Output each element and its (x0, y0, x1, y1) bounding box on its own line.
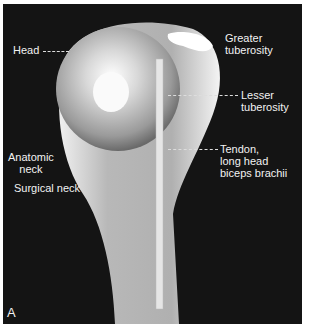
label-line: Tendon, (220, 143, 287, 155)
label-line: Lesser (241, 89, 289, 101)
xray-image: Head Greater tuberosity Lesser tuberosit… (3, 4, 302, 324)
panel-letter: A (7, 307, 16, 319)
label-line: tuberosity (241, 101, 289, 113)
label-head: Head (13, 44, 39, 56)
label-line: tuberosity (225, 44, 273, 56)
label-greater-tuberosity: Greater tuberosity (225, 32, 273, 56)
leader-lesser-tuberosity (168, 95, 238, 96)
label-surgical-neck: Surgical neck (14, 182, 80, 194)
leader-head (43, 51, 69, 52)
label-line: biceps brachii (220, 167, 287, 179)
label-lesser-tuberosity: Lesser tuberosity (241, 89, 289, 113)
label-line: Greater (225, 32, 273, 44)
label-line: neck (8, 163, 54, 175)
label-line: Anatomic (8, 151, 54, 163)
label-anatomic-neck: Anatomic neck (8, 151, 54, 175)
label-tendon: Tendon, long head biceps brachii (220, 143, 287, 179)
label-line: long head (220, 155, 287, 167)
leader-tendon (168, 149, 218, 150)
